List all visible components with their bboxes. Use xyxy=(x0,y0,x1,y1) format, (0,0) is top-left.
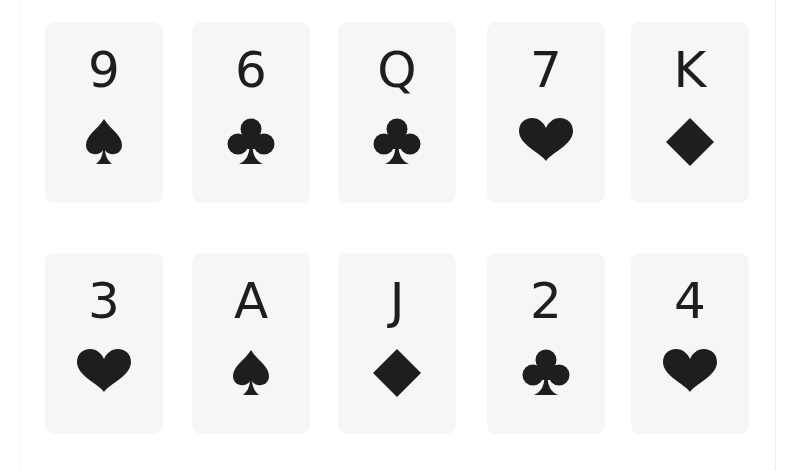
heart-icon xyxy=(661,348,719,394)
diamond-icon xyxy=(372,348,422,398)
card-r2-c5[interactable]: 4 xyxy=(631,253,749,434)
club-icon xyxy=(521,348,571,398)
spade-icon xyxy=(84,117,124,167)
card-r1-c1[interactable]: 9 xyxy=(45,22,163,203)
card-rank: 6 xyxy=(192,44,310,96)
card-r2-c3[interactable]: J xyxy=(338,253,456,434)
card-board: 9 6 Q 7 K 3 A xyxy=(0,0,798,471)
card-rank: Q xyxy=(338,44,456,96)
card-rank: 2 xyxy=(487,275,605,327)
club-icon xyxy=(372,117,422,167)
club-icon xyxy=(226,117,276,167)
spade-icon xyxy=(231,348,271,398)
card-r2-c1[interactable]: 3 xyxy=(45,253,163,434)
card-r2-c2[interactable]: A xyxy=(192,253,310,434)
card-r2-c4[interactable]: 2 xyxy=(487,253,605,434)
heart-icon xyxy=(517,117,575,163)
heart-icon xyxy=(75,348,133,394)
card-rank: 9 xyxy=(45,44,163,96)
card-r1-c2[interactable]: 6 xyxy=(192,22,310,203)
card-rank: 3 xyxy=(45,275,163,327)
card-r1-c5[interactable]: K xyxy=(631,22,749,203)
card-r1-c4[interactable]: 7 xyxy=(487,22,605,203)
card-rank: 4 xyxy=(631,275,749,327)
card-rank: K xyxy=(631,44,749,96)
card-r1-c3[interactable]: Q xyxy=(338,22,456,203)
card-rank: A xyxy=(192,275,310,327)
card-rank: 7 xyxy=(487,44,605,96)
diamond-icon xyxy=(665,117,715,167)
card-rank: J xyxy=(338,275,456,327)
